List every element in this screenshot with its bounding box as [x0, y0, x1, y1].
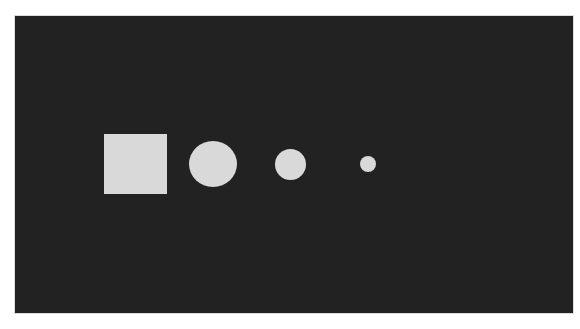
small-circle-shape	[360, 156, 376, 172]
large-circle-shape	[189, 141, 237, 187]
dark-canvas	[15, 16, 573, 313]
square-shape	[104, 134, 167, 194]
medium-circle-shape	[275, 149, 306, 180]
